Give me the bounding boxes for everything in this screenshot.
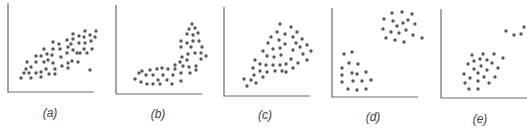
data-point bbox=[179, 79, 182, 82]
scatter-panel-e bbox=[441, 9, 527, 98]
data-point bbox=[404, 28, 407, 31]
data-point bbox=[252, 73, 255, 76]
data-point bbox=[199, 51, 202, 54]
data-point bbox=[401, 21, 404, 24]
data-point bbox=[340, 66, 343, 69]
data-point bbox=[24, 67, 27, 70]
data-point bbox=[479, 64, 482, 67]
data-point bbox=[191, 33, 194, 36]
data-point bbox=[189, 45, 192, 48]
data-point bbox=[347, 61, 350, 64]
data-point bbox=[71, 37, 74, 40]
data-point bbox=[360, 79, 363, 82]
data-point bbox=[185, 41, 188, 44]
data-point bbox=[265, 54, 268, 57]
data-point bbox=[44, 67, 47, 70]
data-point bbox=[504, 29, 507, 32]
data-point bbox=[151, 82, 154, 85]
data-point bbox=[71, 48, 74, 51]
data-point bbox=[466, 62, 469, 65]
data-point bbox=[493, 75, 496, 78]
data-point bbox=[144, 73, 147, 76]
data-point bbox=[47, 72, 50, 75]
data-point bbox=[490, 61, 493, 64]
data-point bbox=[470, 53, 473, 56]
data-point bbox=[275, 30, 278, 33]
data-point bbox=[382, 17, 385, 20]
data-point bbox=[351, 79, 354, 82]
data-point bbox=[266, 41, 269, 44]
data-point bbox=[369, 78, 372, 81]
data-point bbox=[264, 63, 267, 66]
data-point bbox=[171, 73, 174, 76]
data-point bbox=[395, 24, 398, 27]
data-point bbox=[155, 67, 158, 70]
scatter-panel-d bbox=[332, 8, 424, 97]
data-point bbox=[355, 88, 358, 91]
data-point bbox=[165, 78, 168, 81]
data-point bbox=[512, 33, 515, 36]
scatter-panel-a bbox=[8, 3, 98, 92]
data-point bbox=[137, 71, 140, 74]
data-point bbox=[258, 62, 261, 65]
data-point bbox=[261, 75, 264, 78]
data-point bbox=[413, 22, 416, 25]
data-point bbox=[193, 51, 196, 54]
data-point bbox=[295, 30, 298, 33]
data-point bbox=[410, 12, 413, 15]
scatter-panel-b bbox=[116, 5, 208, 94]
data-point bbox=[93, 35, 96, 38]
data-point bbox=[482, 75, 485, 78]
data-point bbox=[178, 60, 181, 63]
data-point bbox=[197, 39, 200, 42]
data-point bbox=[83, 41, 86, 44]
data-point bbox=[467, 87, 470, 90]
data-point bbox=[82, 47, 85, 50]
data-point bbox=[170, 82, 173, 85]
data-point bbox=[305, 58, 308, 61]
data-point bbox=[346, 87, 349, 90]
data-point bbox=[253, 58, 256, 61]
data-point bbox=[34, 60, 37, 63]
data-point bbox=[277, 38, 280, 41]
data-point bbox=[181, 64, 184, 67]
data-point bbox=[188, 71, 191, 74]
data-point bbox=[496, 66, 499, 69]
data-point bbox=[476, 87, 479, 90]
data-point bbox=[468, 76, 471, 79]
data-point bbox=[19, 76, 22, 79]
data-point bbox=[271, 47, 274, 50]
data-point bbox=[78, 51, 81, 54]
data-point bbox=[406, 18, 409, 21]
data-point bbox=[145, 82, 148, 85]
data-point bbox=[39, 70, 42, 73]
data-point bbox=[82, 35, 85, 38]
data-point bbox=[391, 19, 394, 22]
data-point bbox=[389, 30, 392, 33]
data-point bbox=[289, 25, 292, 28]
data-point bbox=[381, 27, 384, 30]
data-point bbox=[76, 60, 79, 63]
data-point bbox=[350, 71, 353, 74]
data-point bbox=[476, 71, 479, 74]
data-point bbox=[180, 55, 183, 58]
data-point bbox=[156, 78, 159, 81]
data-point bbox=[476, 79, 479, 82]
data-point bbox=[265, 70, 268, 73]
data-point bbox=[39, 75, 42, 78]
data-point bbox=[186, 52, 189, 55]
panel-label-d: (d) bbox=[366, 110, 381, 124]
data-point bbox=[29, 76, 32, 79]
data-point bbox=[88, 33, 91, 36]
panel-label-b: (b) bbox=[151, 107, 166, 121]
data-point bbox=[53, 72, 56, 75]
data-point bbox=[158, 82, 161, 85]
data-point bbox=[179, 39, 182, 42]
data-point bbox=[190, 22, 193, 25]
data-point bbox=[77, 41, 80, 44]
data-point bbox=[77, 34, 80, 37]
data-point bbox=[300, 37, 303, 40]
data-point bbox=[296, 61, 299, 64]
data-point bbox=[194, 64, 197, 67]
data-point bbox=[139, 80, 142, 83]
